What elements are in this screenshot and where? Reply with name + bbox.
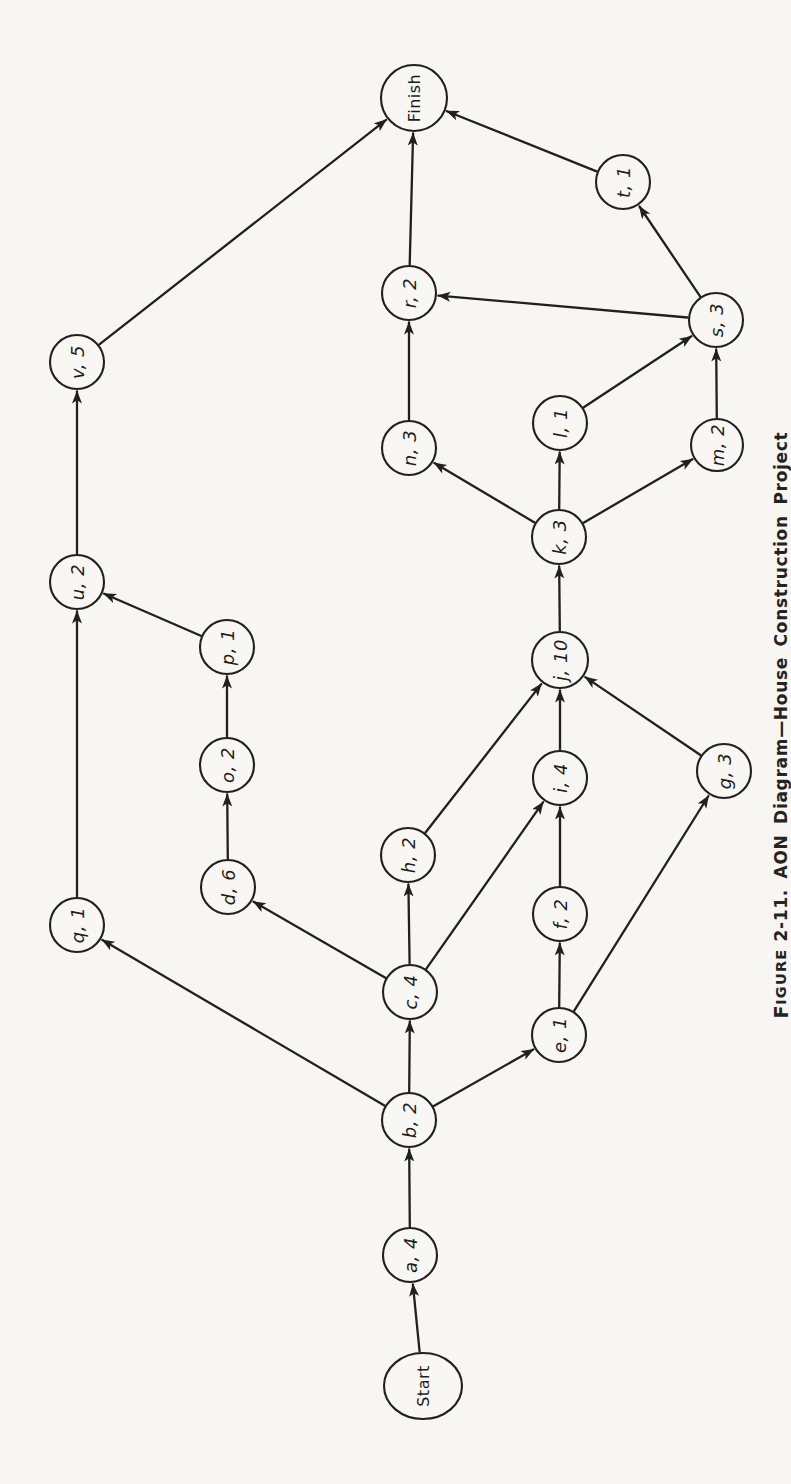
node-b-label: b, 2: [399, 1102, 420, 1138]
node-n: n, 3: [382, 421, 436, 475]
edge-c-h: [408, 885, 409, 964]
node-start-label: Start: [414, 1365, 433, 1407]
edge-b-q: [102, 940, 384, 1106]
node-v: v, 5: [50, 335, 104, 389]
node-u: u, 2: [50, 555, 104, 609]
node-s-label: s, 3: [706, 303, 727, 337]
node-c: c, 4: [383, 965, 437, 1019]
node-i: i, 4: [533, 751, 587, 805]
node-j: j, 10: [532, 632, 588, 688]
caption-title: 2-11. AON Diagram—House Construction Pro…: [771, 432, 791, 942]
node-d-label: d, 6: [218, 869, 239, 905]
node-i-label: i, 4: [550, 763, 571, 793]
edge-p-u: [104, 594, 201, 636]
node-v-label: v, 5: [67, 345, 88, 379]
node-e-label: e, 1: [549, 1017, 570, 1053]
node-a-label: a, 4: [400, 1237, 421, 1273]
edge-b-e: [434, 1050, 534, 1106]
book-page: Starta, 4b, 2c, 4e, 1f, 2g, 3h, 2i, 4j, …: [0, 0, 791, 1484]
node-q-label: q, 1: [67, 907, 88, 943]
node-o: o, 2: [200, 738, 254, 792]
edge-d-o: [227, 795, 228, 859]
node-e: e, 1: [532, 1008, 586, 1062]
caption-figure-initial: F: [770, 1005, 791, 1019]
node-r: r, 2: [382, 266, 436, 320]
edge-c-d: [254, 902, 386, 978]
caption-figure-smallcaps: IGURE: [773, 949, 789, 1005]
node-b: b, 2: [382, 1093, 436, 1147]
node-t: t, 1: [596, 155, 650, 209]
node-s: s, 3: [689, 293, 743, 347]
node-p: p, 1: [200, 620, 254, 674]
node-m-label: m, 2: [707, 424, 728, 466]
node-g: g, 3: [697, 744, 751, 798]
edge-j-k: [559, 567, 560, 631]
node-l: l, 1: [533, 396, 587, 450]
edge-m-s: [716, 350, 717, 418]
edge-e-g: [574, 796, 708, 1011]
edge-h-j: [426, 684, 542, 832]
node-o-label: o, 2: [217, 747, 238, 783]
edge-l-s: [584, 336, 692, 407]
edge-s-t: [640, 207, 701, 297]
node-g-label: g, 3: [714, 753, 735, 789]
node-l-label: l, 1: [550, 408, 571, 438]
edge-v-finish: [99, 120, 386, 345]
node-f: f, 2: [533, 887, 587, 941]
node-a: a, 4: [383, 1228, 437, 1282]
edge-start-a: [413, 1284, 420, 1351]
node-d: d, 6: [201, 860, 255, 914]
edge-b-c: [409, 1022, 410, 1092]
node-u-label: u, 2: [67, 564, 88, 600]
edge-g-j: [585, 677, 700, 755]
figure-caption: FIGURE2-11. AON Diagram—House Constructi…: [770, 432, 791, 1019]
node-h: h, 2: [381, 828, 435, 882]
node-c-label: c, 4: [400, 975, 421, 1010]
edge-c-i: [426, 802, 543, 969]
node-finish-label: Finish: [405, 74, 424, 123]
node-start: Start: [384, 1353, 462, 1419]
node-r-label: r, 2: [399, 278, 420, 309]
node-m: m, 2: [691, 419, 743, 471]
node-h-label: h, 2: [398, 837, 419, 873]
node-finish: Finish: [381, 65, 447, 131]
edge-a-b: [409, 1150, 410, 1227]
node-q: q, 1: [50, 898, 104, 952]
node-t-label: t, 1: [613, 166, 634, 198]
edge-k-m: [584, 459, 693, 522]
node-j-label: j, 10: [550, 639, 571, 684]
node-f-label: f, 2: [550, 899, 571, 930]
node-k: k, 3: [532, 510, 586, 564]
edge-k-n: [434, 463, 534, 522]
node-p-label: p, 1: [217, 629, 238, 666]
edge-s-r: [438, 296, 687, 318]
edge-e-f: [559, 944, 560, 1007]
aon-diagram-svg: Starta, 4b, 2c, 4e, 1f, 2g, 3h, 2i, 4j, …: [0, 0, 791, 1484]
node-layer: Starta, 4b, 2c, 4e, 1f, 2g, 3h, 2i, 4j, …: [50, 65, 751, 1419]
edge-k-l: [559, 453, 560, 509]
node-n-label: n, 3: [399, 430, 420, 466]
edge-t-finish: [447, 111, 597, 171]
node-k-label: k, 3: [549, 519, 570, 554]
edge-r-finish: [410, 134, 413, 265]
